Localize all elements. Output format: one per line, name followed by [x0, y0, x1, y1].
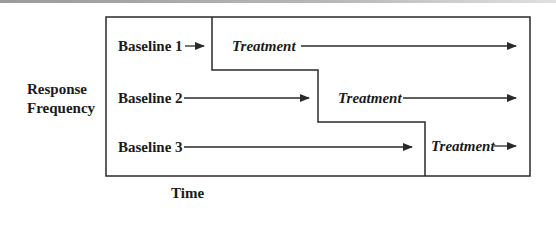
- y-axis-label-line-1: Response: [27, 80, 97, 99]
- baseline-1-label: Baseline 1: [118, 37, 183, 55]
- y-axis-label: Response Frequency: [27, 80, 97, 118]
- treatment-2-label: Treatment: [338, 89, 402, 107]
- x-axis-label: Time: [171, 185, 204, 202]
- treatment-3-label: Treatment: [431, 137, 495, 155]
- baseline-3-label: Baseline 3: [118, 138, 183, 156]
- treatment-1-label: Treatment: [232, 37, 296, 55]
- y-axis-label-line-2: Frequency: [27, 99, 97, 118]
- baseline-2-label: Baseline 2: [118, 89, 183, 107]
